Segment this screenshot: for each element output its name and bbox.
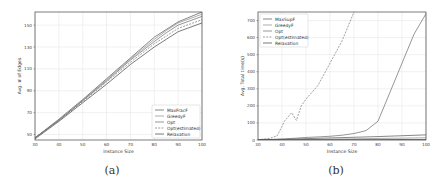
legend: MaxSupFGreedyFOptOpt(estimated)Relaxatio…: [260, 14, 309, 47]
chart-a-svg: 30405060708090100507090110130150Instance…: [0, 0, 224, 188]
y-tick-label: 400: [247, 69, 255, 74]
legend: MaxFracFGreedyFOptOpt(estimated)Relaxati…: [152, 105, 201, 138]
x-axis-label: Instance Size: [327, 149, 358, 154]
x-tick-label: 50: [80, 142, 86, 147]
y-tick-label: 700: [247, 18, 255, 23]
chart-a-caption: (a): [0, 164, 224, 177]
x-tick-label: 80: [375, 142, 381, 147]
y-axis-label: Avg. Total time(s): [240, 56, 245, 96]
legend-label: GreedyF: [167, 114, 186, 119]
y-tick-label: 600: [247, 35, 255, 40]
x-tick-label: 90: [399, 142, 405, 147]
legend-label: MaxFracF: [167, 108, 188, 113]
x-tick-label: 70: [351, 142, 357, 147]
chart-b-svg: 304050607080901000100200300400500600700I…: [224, 0, 448, 188]
legend-label: Opt(estimated): [275, 35, 309, 40]
y-tick-label: 50: [27, 132, 33, 137]
legend-label: GreedyF: [275, 23, 294, 28]
legend-label: MaxSupF: [275, 17, 295, 22]
y-tick-label: 0: [252, 138, 255, 143]
y-tick-label: 500: [247, 52, 255, 57]
y-tick-label: 130: [24, 45, 32, 50]
chart-panel-b: 304050607080901000100200300400500600700I…: [224, 0, 448, 188]
x-tick-label: 100: [198, 142, 206, 147]
y-tick-label: 300: [247, 86, 255, 91]
y-tick-label: 200: [247, 103, 255, 108]
x-tick-label: 70: [128, 142, 134, 147]
y-tick-label: 110: [24, 66, 32, 71]
x-tick-label: 60: [327, 142, 333, 147]
x-tick-label: 40: [279, 142, 285, 147]
y-tick-label: 90: [27, 88, 33, 93]
legend-label: Relaxation: [275, 41, 298, 46]
x-tick-label: 30: [255, 142, 261, 147]
x-tick-label: 60: [104, 142, 110, 147]
legend-label: Opt(estimated): [167, 126, 201, 131]
x-tick-label: 40: [56, 142, 62, 147]
y-axis-label: Avg. # of Edges: [17, 57, 22, 94]
x-tick-label: 100: [422, 142, 430, 147]
legend-label: Opt: [275, 29, 283, 34]
legend-label: Opt: [167, 120, 175, 125]
x-tick-label: 30: [32, 142, 38, 147]
x-tick-label: 50: [303, 142, 309, 147]
y-tick-label: 100: [247, 120, 255, 125]
x-tick-label: 80: [152, 142, 158, 147]
y-tick-label: 70: [27, 110, 33, 115]
legend-label: Relaxation: [167, 132, 190, 137]
chart-b-caption: (b): [224, 164, 448, 177]
y-tick-label: 150: [24, 23, 32, 28]
x-tick-label: 90: [175, 142, 181, 147]
x-axis-label: Instance Size: [103, 149, 134, 154]
chart-panel-a: 30405060708090100507090110130150Instance…: [0, 0, 224, 188]
